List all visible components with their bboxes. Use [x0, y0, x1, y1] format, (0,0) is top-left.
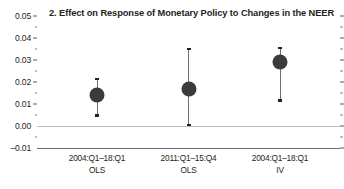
ytick-major-right-4	[340, 104, 344, 105]
point-marker-1	[90, 88, 105, 103]
ytick-major-4	[33, 104, 37, 105]
ytick-major-2	[33, 60, 37, 61]
ytick-label-6: –0.01	[10, 143, 31, 153]
ytick-minor-right-4	[340, 115, 343, 116]
ytick-label-5: 0.00	[15, 121, 31, 131]
error-bar-cap-bottom-3	[278, 99, 282, 102]
xaxis-label-2-method: OLS	[161, 165, 217, 177]
ytick-major-3	[33, 82, 37, 83]
ytick-major-right-1	[340, 38, 344, 39]
ytick-minor-right-3	[340, 93, 343, 94]
ytick-major-right-6	[340, 148, 344, 149]
xaxis-label-3-method: IV	[252, 165, 308, 177]
ytick-minor-4	[35, 115, 38, 116]
plot-area: 0.05 0.04 0.03 0.02 0.01 0.00 –0.01	[37, 16, 340, 148]
xaxis-label-3-period: 2004:Q1–18:Q1	[252, 153, 308, 163]
ytick-minor-right-5	[340, 137, 343, 138]
ytick-minor-right-0	[340, 27, 343, 28]
xaxis-label-1-method: OLS	[69, 165, 125, 177]
zero-reference-line	[37, 126, 340, 127]
ytick-label-4: 0.01	[15, 99, 31, 109]
ytick-major-right-0	[340, 16, 344, 17]
ytick-label-3: 0.02	[15, 77, 31, 87]
ytick-major-right-5	[340, 126, 344, 127]
error-bar-cap-top-3	[278, 47, 282, 50]
ytick-major-1	[33, 38, 37, 39]
xaxis-label-3: 2004:Q1–18:Q1 IV	[252, 153, 308, 176]
ytick-minor-0	[35, 27, 38, 28]
ytick-minor-right-1	[340, 49, 343, 50]
xaxis-label-1: 2004:Q1–18:Q1 OLS	[69, 153, 125, 176]
error-bar-cap-top-2	[187, 48, 191, 51]
ytick-minor-3	[35, 93, 38, 94]
error-bar-cap-bottom-1	[95, 114, 99, 117]
xaxis-label-1-period: 2004:Q1–18:Q1	[69, 153, 125, 163]
ytick-label-1: 0.04	[15, 33, 31, 43]
xaxis-label-2-period: 2011:Q1–15:Q4	[161, 153, 217, 163]
error-bar-cap-bottom-2	[187, 124, 191, 127]
ytick-label-2: 0.03	[15, 55, 31, 65]
ytick-minor-right-2	[340, 71, 343, 72]
point-marker-2	[181, 81, 196, 96]
ytick-label-0: 0.05	[15, 11, 31, 21]
ytick-minor-5	[35, 137, 38, 138]
x-axis-line	[37, 148, 340, 149]
ytick-major-right-2	[340, 60, 344, 61]
ytick-minor-2	[35, 71, 38, 72]
point-marker-3	[273, 55, 288, 70]
ytick-major-right-3	[340, 82, 344, 83]
ytick-major-0	[33, 16, 37, 17]
ytick-minor-1	[35, 49, 38, 50]
error-bar-cap-top-1	[95, 78, 99, 81]
xaxis-label-2: 2011:Q1–15:Q4 OLS	[161, 153, 217, 176]
